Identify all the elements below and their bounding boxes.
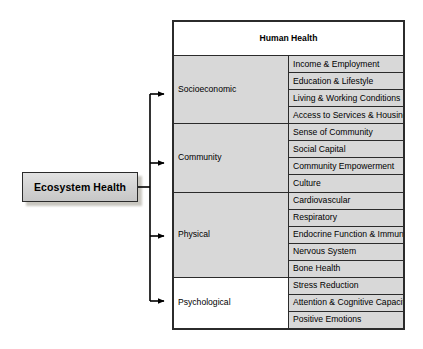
group-cell: Physical	[174, 192, 289, 277]
item-cell: Bone Health	[289, 260, 404, 277]
diagram-canvas: Ecosystem Health Human HealthSocioeconom…	[0, 0, 423, 349]
item-cell: Respiratory	[289, 209, 404, 226]
item-cell: Positive Emotions	[289, 311, 404, 328]
item-cell: Cardiovascular	[289, 192, 404, 209]
item-cell: Endocrine Function & Immunity	[289, 226, 404, 243]
item-cell: Access to Services & Housing	[289, 107, 404, 124]
item-cell: Stress Reduction	[289, 277, 404, 294]
group-cell: Community	[174, 124, 289, 192]
group-cell: Psychological	[174, 277, 289, 328]
item-cell: Attention & Cognitive Capacity	[289, 294, 404, 311]
item-cell: Education & Lifestyle	[289, 73, 404, 90]
table-row: CommunitySense of Community	[174, 124, 404, 141]
item-cell: Culture	[289, 175, 404, 192]
item-cell: Living & Working Conditions	[289, 90, 404, 107]
table-row: PhysicalCardiovascular	[174, 192, 404, 209]
group-cell: Socioeconomic	[174, 56, 289, 124]
item-cell: Sense of Community	[289, 124, 404, 141]
item-cell: Nervous System	[289, 243, 404, 260]
table-row: SocioeconomicIncome & Employment	[174, 56, 404, 73]
item-cell: Community Empowerment	[289, 158, 404, 175]
matrix-table: Human HealthSocioeconomicIncome & Employ…	[173, 21, 404, 329]
table-header-row: Human Health	[174, 22, 404, 56]
human-health-table: Human HealthSocioeconomicIncome & Employ…	[172, 20, 405, 330]
table-row: PsychologicalStress Reduction	[174, 277, 404, 294]
table-title: Human Health	[174, 22, 404, 56]
item-cell: Income & Employment	[289, 56, 404, 73]
item-cell: Social Capital	[289, 141, 404, 158]
